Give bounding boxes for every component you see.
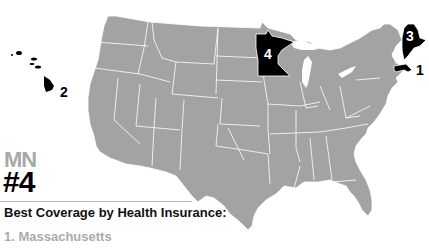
rank-label-mn: 4 [264,46,272,62]
rank-label-ma: 1 [416,62,424,78]
callout-rank: #4 [3,168,34,196]
callout-heading: Best Coverage by Health Insurance: [4,205,227,220]
rank-label-me: 3 [406,28,414,44]
rank-label-hi: 2 [60,84,68,100]
list-item: 1. Massachusetts [4,229,112,244]
divider [0,201,192,202]
continental-us [88,16,404,230]
state-hawaii[interactable] [11,51,54,92]
